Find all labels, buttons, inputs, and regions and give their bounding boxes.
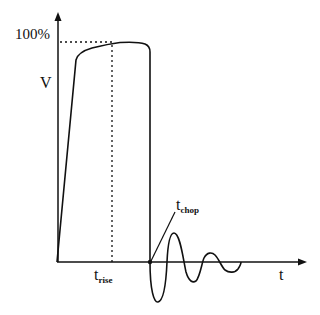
diagram-graphics: [0, 0, 320, 315]
x-axis-label: t: [279, 267, 283, 283]
x-axis-arrow-icon: [298, 259, 307, 266]
y-axis-arrow-icon: [55, 12, 62, 21]
t-rise-label: trise: [94, 267, 112, 285]
impulse-chop-diagram: 100% V t trise tchop: [0, 0, 320, 315]
impulse-waveform: [57, 42, 150, 262]
y-max-label: 100%: [15, 27, 50, 42]
t-chop-point: [148, 260, 152, 264]
t-chop-label: tchop: [176, 197, 199, 215]
chop-oscillation: [150, 233, 241, 302]
t-chop-leader: [151, 212, 175, 261]
y-axis-label: V: [40, 75, 52, 91]
t-chop-subscript: chop: [180, 205, 199, 215]
t-rise-subscript: rise: [98, 275, 112, 285]
